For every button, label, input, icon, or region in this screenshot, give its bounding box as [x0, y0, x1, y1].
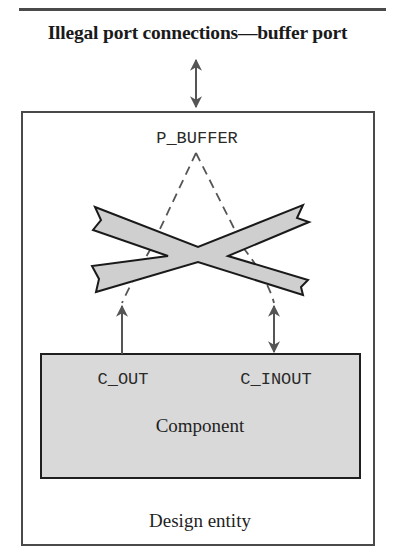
design-entity-label: Design entity: [149, 510, 251, 531]
port-label-c-inout: C_INOUT: [240, 370, 311, 389]
port-label-c-out: C_OUT: [97, 370, 148, 389]
design-entity-box: [22, 112, 374, 545]
diagram-canvas: P_BUFFER C_OUT C_INOUT Component Design …: [0, 0, 395, 548]
component-label: Component: [156, 415, 245, 436]
port-label-p-buffer: P_BUFFER: [156, 129, 238, 148]
illegal-cross-icon: [92, 205, 309, 295]
